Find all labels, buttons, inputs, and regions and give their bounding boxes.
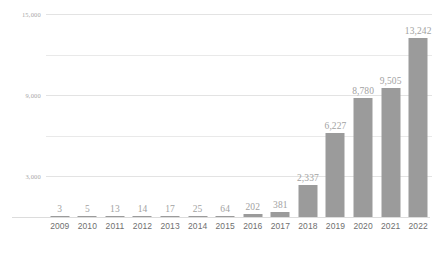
x-axis-line xyxy=(12,217,430,218)
bar-slot: 8,780 xyxy=(349,14,377,217)
bar[interactable] xyxy=(105,216,124,217)
y-tick-label-3000: 3,000 xyxy=(25,173,41,180)
x-axis-label: 2018 xyxy=(298,221,317,231)
bar-chart: 15,0009,0003,000 3513141725642023812,337… xyxy=(0,0,442,254)
bar[interactable] xyxy=(354,98,373,217)
bars-layer: 3513141725642023812,3376,2278,7809,50513… xyxy=(46,14,432,217)
bar[interactable] xyxy=(188,216,207,217)
bar-value-label: 2,337 xyxy=(297,173,319,183)
bar[interactable] xyxy=(50,216,69,217)
bar-slot: 13 xyxy=(101,14,129,217)
x-axis-labels: 2009201020112012201320142015201620172018… xyxy=(46,221,432,239)
x-axis-label: 2019 xyxy=(326,221,345,231)
bar[interactable] xyxy=(78,216,97,217)
bar-slot: 2,337 xyxy=(294,14,322,217)
x-axis-label: 2016 xyxy=(243,221,262,231)
bar-value-label: 3 xyxy=(57,204,62,214)
bar[interactable] xyxy=(133,216,152,217)
bar-value-label: 202 xyxy=(246,202,261,212)
x-axis-label: 2017 xyxy=(271,221,290,231)
bar-slot: 17 xyxy=(156,14,184,217)
x-axis-label: 2020 xyxy=(353,221,372,231)
bar-value-label: 381 xyxy=(273,200,288,210)
x-axis-label: 2022 xyxy=(409,221,428,231)
bar-slot: 381 xyxy=(267,14,295,217)
y-tick-label-15000: 15,000 xyxy=(22,11,41,18)
x-axis-label: 2010 xyxy=(78,221,97,231)
bar-value-label: 5 xyxy=(85,204,90,214)
bar-value-label: 25 xyxy=(193,204,203,214)
x-axis-label: 2015 xyxy=(216,221,235,231)
bar-value-label: 6,227 xyxy=(325,121,347,131)
x-axis-label: 2021 xyxy=(381,221,400,231)
x-axis-label: 2011 xyxy=(106,221,125,231)
x-axis-label: 2013 xyxy=(160,221,179,231)
bar[interactable] xyxy=(243,214,262,217)
bar-value-label: 8,780 xyxy=(352,86,374,96)
y-tick-label-9000: 9,000 xyxy=(25,92,41,99)
bar-slot: 64 xyxy=(211,14,239,217)
bar[interactable] xyxy=(271,212,290,217)
bar-slot: 9,505 xyxy=(377,14,405,217)
bar-value-label: 13,242 xyxy=(405,26,432,36)
bar-slot: 14 xyxy=(129,14,157,217)
bar-value-label: 14 xyxy=(138,204,148,214)
bar-value-label: 9,505 xyxy=(380,76,402,86)
x-axis-label: 2012 xyxy=(133,221,152,231)
bar-slot: 3 xyxy=(46,14,74,217)
bar[interactable] xyxy=(216,216,235,217)
bar-slot: 13,242 xyxy=(404,14,432,217)
bar-value-label: 64 xyxy=(220,204,230,214)
bar-slot: 6,227 xyxy=(322,14,350,217)
x-axis-label: 2009 xyxy=(50,221,69,231)
x-axis-label: 2014 xyxy=(188,221,207,231)
bar[interactable] xyxy=(298,185,317,217)
bar-value-label: 13 xyxy=(110,204,120,214)
bar[interactable] xyxy=(381,88,400,217)
bar[interactable] xyxy=(326,133,345,217)
bar-value-label: 17 xyxy=(165,204,175,214)
bar-slot: 25 xyxy=(184,14,212,217)
bar[interactable] xyxy=(161,216,180,217)
bar-slot: 5 xyxy=(74,14,102,217)
bar[interactable] xyxy=(409,38,428,217)
bar-slot: 202 xyxy=(239,14,267,217)
